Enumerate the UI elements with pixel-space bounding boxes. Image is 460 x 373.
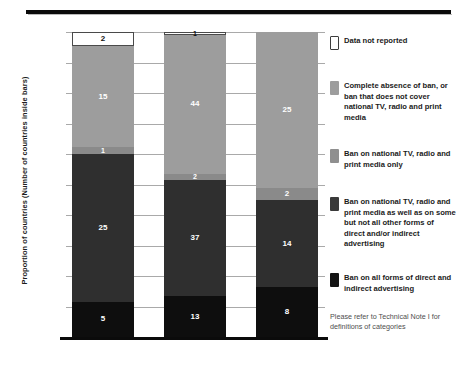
- legend-footnote: Please refer to Technical Note I for def…: [330, 312, 454, 331]
- bar-segment[interactable]: 25: [72, 154, 134, 302]
- legend-swatch-mid: [330, 149, 339, 163]
- plot-area: 100%90%80%70%60%50%40%30%20%10%0% 215125…: [66, 32, 325, 337]
- legend-item[interactable]: Ban on all forms of direct and indirect …: [330, 273, 456, 294]
- bar-segment[interactable]: 5: [72, 302, 134, 337]
- y-axis-title: Proportion of countries (Number of count…: [20, 36, 29, 326]
- chart-root: Proportion of countries (Number of count…: [0, 0, 460, 373]
- bar-segment-value: 44: [191, 100, 200, 108]
- bar-segment-value: 1: [193, 30, 197, 37]
- stacked-bar[interactable]: 2151255: [72, 32, 134, 337]
- bar-segment[interactable]: 2: [256, 188, 318, 201]
- bar-segment-value: 5: [101, 315, 105, 323]
- legend-swatch-light: [330, 81, 339, 95]
- legend-swatch-white: [330, 36, 339, 50]
- bar-segment-value: 2: [285, 190, 289, 198]
- bar-segment-value: 25: [283, 106, 292, 114]
- legend-item[interactable]: Data not reported: [330, 36, 456, 50]
- x-axis-baseline: [60, 337, 328, 340]
- bar-segment-value: 2: [193, 173, 197, 180]
- bar-segment[interactable]: 15: [72, 46, 134, 147]
- legend-label: Data not reported: [344, 36, 456, 47]
- legend-swatch-dark: [330, 197, 339, 211]
- bar-segment[interactable]: 2: [72, 32, 134, 46]
- bar-segment-value: 8: [285, 308, 289, 316]
- bar-segment[interactable]: 13: [164, 296, 226, 337]
- bar-segment[interactable]: 44: [164, 35, 226, 173]
- bar-segment[interactable]: 25: [256, 32, 318, 188]
- legend-label: Ban on national TV, radio and print medi…: [344, 149, 456, 170]
- top-divider-shadow: [28, 14, 452, 15]
- bar-segment[interactable]: 14: [256, 200, 318, 287]
- legend-label: Ban on national TV, radio and print medi…: [344, 197, 456, 250]
- bar-segment[interactable]: 8: [256, 287, 318, 337]
- bar-segment-value: 2: [101, 35, 105, 43]
- legend-label: Ban on all forms of direct and indirect …: [344, 273, 456, 294]
- legend-item[interactable]: Ban on national TV, radio and print medi…: [330, 149, 456, 170]
- legend-label: Complete absence of ban, or ban that doe…: [344, 81, 456, 123]
- legend-item[interactable]: Complete absence of ban, or ban that doe…: [330, 81, 456, 123]
- stacked-bar[interactable]: 252148: [256, 32, 318, 337]
- bar-segment-value: 14: [283, 240, 292, 248]
- bar-segment[interactable]: 1: [72, 147, 134, 154]
- bar-segment-value: 15: [99, 93, 108, 101]
- bar-segment-value: 13: [191, 313, 200, 321]
- bar-segment-value: 1: [101, 147, 105, 154]
- bar-segment-value: 25: [99, 224, 108, 232]
- legend-item[interactable]: Ban on national TV, radio and print medi…: [330, 197, 456, 250]
- stacked-bar[interactable]: 14423713: [164, 32, 226, 337]
- bar-segment[interactable]: 37: [164, 180, 226, 296]
- legend-swatch-black: [330, 273, 339, 287]
- bar-segment-value: 37: [191, 234, 200, 242]
